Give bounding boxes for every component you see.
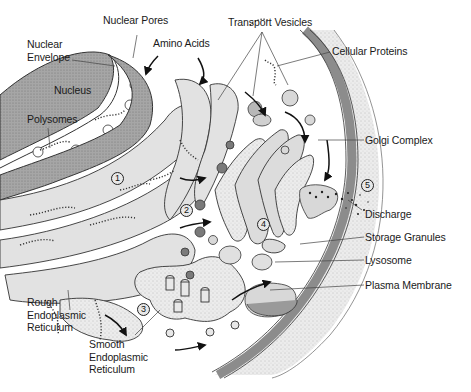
label-rough-er: Rough Endoplasmic Reticulum [27, 296, 86, 334]
label-transport-vesicles: Transport Vesicles [228, 16, 312, 29]
step-1-badge: 1 [111, 172, 124, 185]
label-storage-granules: Storage Granules [365, 231, 446, 244]
label-nucleus: Nucleus [54, 84, 91, 97]
label-nuclear-pores: Nuclear Pores [103, 14, 168, 27]
label-plasma-membrane: Plasma Membrane [365, 279, 452, 292]
label-lysosome: Lysosome [365, 254, 412, 267]
label-cellular-proteins: Cellular Proteins [332, 45, 407, 58]
label-nuclear-envelope: Nuclear Envelope [27, 38, 70, 63]
label-amino-acids: Amino Acids [153, 37, 210, 50]
label-golgi-complex: Golgi Complex [365, 134, 433, 147]
step-3-badge: 3 [137, 303, 150, 316]
label-smooth-er: Smooth Endoplasmic Reticulum [89, 338, 148, 376]
label-discharge: Discharge [365, 208, 411, 221]
label-polysomes: Polysomes [27, 113, 77, 126]
step-4-badge: 4 [257, 218, 270, 231]
smooth-er-shape [135, 257, 245, 337]
step-5-badge: 5 [361, 179, 374, 192]
step-2-badge: 2 [180, 204, 193, 217]
